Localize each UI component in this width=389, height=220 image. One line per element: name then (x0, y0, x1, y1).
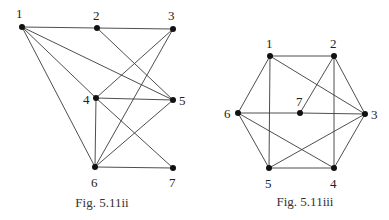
vertex-label-7: 7 (296, 94, 303, 109)
edge-1-4 (22, 27, 96, 98)
figure-caption: Fig. 5.11iii (277, 194, 334, 209)
vertex-1 (267, 53, 273, 59)
edge-1-5 (22, 27, 173, 100)
vertex-4 (331, 165, 337, 171)
vertex-label-1: 1 (16, 6, 23, 21)
edge-3-4 (96, 29, 173, 98)
vertex-4 (93, 95, 99, 101)
edge-1-3 (270, 56, 365, 114)
edge-3-4 (334, 114, 365, 168)
edge-5-6 (238, 113, 269, 168)
vertex-label-2: 2 (330, 36, 337, 51)
vertex-label-3: 3 (371, 107, 378, 122)
vertex-label-6: 6 (91, 175, 98, 190)
vertex-3 (362, 111, 368, 117)
vertex-3 (170, 26, 176, 32)
vertex-label-5: 5 (179, 93, 186, 108)
vertex-6 (235, 110, 241, 116)
graph-figure-5-11iii: 1234567 Fig. 5.11iii (224, 36, 378, 209)
edge-4-5 (96, 98, 173, 100)
vertex-1 (19, 24, 25, 30)
vertex-5 (170, 97, 176, 103)
vertex-label-6: 6 (224, 106, 231, 121)
vertex-label-4: 4 (83, 92, 90, 107)
vertex-label-7: 7 (169, 175, 176, 190)
edge-2-3 (334, 56, 365, 114)
vertex-6 (92, 164, 98, 170)
edge-5-3 (269, 114, 365, 168)
vertex-5 (266, 165, 272, 171)
vertex-label-5: 5 (265, 176, 272, 191)
edge-2-3 (97, 28, 173, 29)
vertex-label-3: 3 (168, 8, 175, 23)
edge-6-4 (238, 113, 334, 168)
diagram-canvas: 1234567 Fig. 5.11ii 1234567 Fig. 5.11iii (0, 0, 389, 220)
vertex-label-2: 2 (93, 8, 100, 23)
vertex-label-1: 1 (266, 36, 273, 51)
edge-1-2 (22, 27, 97, 28)
figure-caption: Fig. 5.11ii (75, 195, 129, 210)
vertex-label-4: 4 (330, 176, 337, 191)
edge-4-6 (95, 98, 96, 167)
edge-6-1 (238, 56, 270, 113)
vertex-2 (94, 25, 100, 31)
vertex-2 (331, 53, 337, 59)
vertex-7 (170, 165, 176, 171)
edge-7-3 (300, 113, 365, 114)
vertex-7 (297, 110, 303, 116)
edge-2-7 (300, 56, 334, 113)
edge-1-5 (269, 56, 270, 168)
graph-figure-5-11ii: 1234567 Fig. 5.11ii (16, 6, 186, 210)
edge-6-7 (95, 167, 173, 168)
